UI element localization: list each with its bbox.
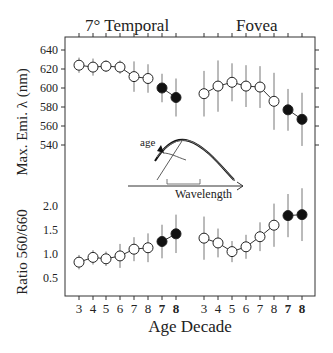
ytick-label: 0.5 (43, 271, 58, 285)
data-point-filled (297, 114, 307, 124)
data-point-open (255, 82, 265, 92)
data-point-filled (171, 229, 181, 239)
data-point-open (227, 77, 237, 87)
inset-spectrum-diagram: age Wavelength (128, 136, 243, 201)
xtick-label: 8 (145, 301, 152, 316)
xtick-label: 8 (299, 301, 306, 316)
ytick-label: 560 (40, 119, 58, 133)
data-point-filled (157, 237, 167, 247)
inset-age-label: age (140, 136, 155, 148)
data-point-open (269, 220, 279, 230)
data-point-open (74, 257, 84, 267)
xtick-label: 8 (173, 301, 180, 316)
axis-ticks: 34567878345678786406206005805605402.01.5… (40, 33, 319, 316)
ytick-label: 2.0 (43, 199, 58, 213)
xtick-label: 7 (159, 301, 166, 316)
ytick-label: 1.5 (43, 223, 58, 237)
xtick-label: 8 (271, 301, 278, 316)
data-point-filled (283, 211, 293, 221)
data-point-open (241, 81, 251, 91)
top-panel-data (74, 58, 307, 146)
data-point-open (199, 89, 209, 99)
xtick-label: 7 (285, 301, 292, 316)
title-temporal: 7° Temporal (85, 16, 169, 35)
data-point-open (255, 232, 265, 242)
data-point-open (129, 244, 139, 254)
data-point-filled (171, 93, 181, 103)
data-point-open (115, 62, 125, 72)
data-point-open (227, 247, 237, 257)
xtick-label: 7 (131, 301, 138, 316)
inset-wavelength-label: Wavelength (175, 187, 232, 201)
xtick-label: 5 (103, 301, 110, 316)
ylabel-max-emission: Max. Emi. λ (nm) (14, 68, 31, 176)
data-point-open (241, 242, 251, 252)
data-point-filled (297, 210, 307, 220)
data-point-open (143, 74, 153, 84)
data-point-open (213, 81, 223, 91)
data-point-filled (157, 83, 167, 93)
ytick-label: 600 (40, 81, 58, 95)
data-point-open (269, 96, 279, 106)
data-point-open (88, 62, 98, 72)
xtick-label: 3 (201, 301, 208, 316)
xtick-label: 3 (76, 301, 83, 316)
xtick-label: 6 (243, 301, 250, 316)
data-point-open (143, 243, 153, 253)
ytick-label: 580 (40, 100, 58, 114)
ytick-label: 640 (40, 43, 58, 57)
data-point-open (74, 60, 84, 70)
data-point-open (213, 238, 223, 248)
data-point-open (199, 233, 209, 243)
ytick-label: 540 (40, 138, 58, 152)
ytick-label: 620 (40, 62, 58, 76)
ytick-label: 1.0 (43, 247, 58, 261)
data-point-open (129, 72, 139, 82)
title-fovea: Fovea (236, 16, 278, 35)
data-point-open (101, 254, 111, 264)
xtick-label: 4 (90, 301, 97, 316)
data-point-open (88, 252, 98, 262)
xtick-label: 6 (117, 301, 124, 316)
data-point-filled (283, 105, 293, 115)
data-point-open (115, 251, 125, 261)
ylabel-ratio: Ratio 560/660 (14, 209, 30, 294)
xtick-label: 7 (257, 301, 264, 316)
data-point-open (101, 61, 111, 71)
chart-figure: 34567878345678786406206005805605402.01.5… (0, 0, 333, 353)
xtick-label: 5 (229, 301, 236, 316)
xlabel-age-decade: Age Decade (148, 317, 232, 336)
xtick-label: 4 (215, 301, 222, 316)
